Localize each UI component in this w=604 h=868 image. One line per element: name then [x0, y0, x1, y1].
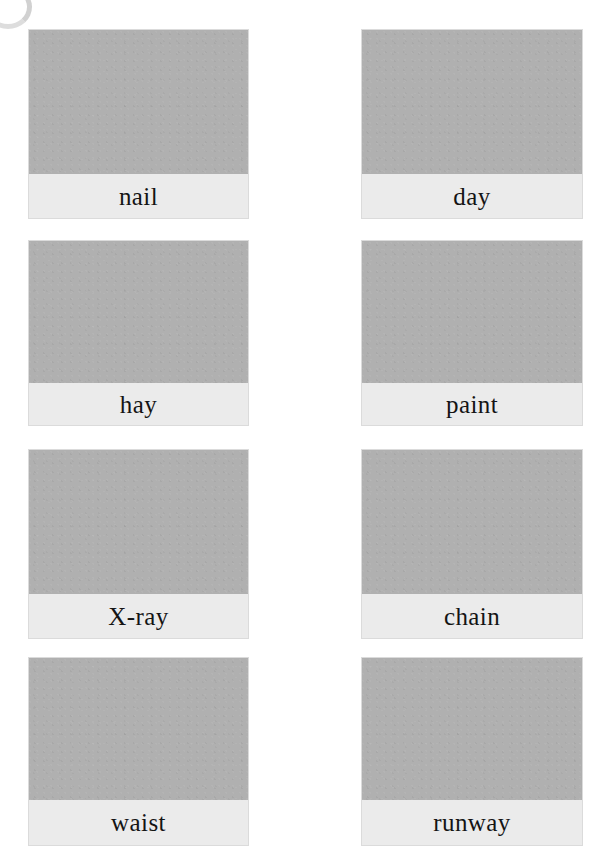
- card-label: nail: [119, 184, 158, 209]
- card-label: X-ray: [108, 604, 168, 629]
- card-image-placeholder: [29, 658, 248, 800]
- card-image-placeholder: [29, 450, 248, 594]
- flashcard-hay[interactable]: hay: [29, 241, 248, 425]
- flashcard-day[interactable]: day: [362, 30, 582, 218]
- card-image-placeholder: [362, 658, 582, 800]
- card-label-band: paint: [362, 383, 582, 425]
- card-image-placeholder: [362, 30, 582, 174]
- card-label: paint: [446, 392, 498, 417]
- card-label-band: nail: [29, 174, 248, 218]
- card-label: chain: [444, 604, 500, 629]
- flashcard-nail[interactable]: nail: [29, 30, 248, 218]
- card-label-band: hay: [29, 383, 248, 425]
- card-label-band: day: [362, 174, 582, 218]
- card-label: day: [453, 184, 490, 209]
- card-label-band: runway: [362, 800, 582, 845]
- card-label-band: X-ray: [29, 594, 248, 638]
- card-label: waist: [111, 810, 166, 835]
- flashcard-chain[interactable]: chain: [362, 450, 582, 638]
- card-image-placeholder: [29, 30, 248, 174]
- flashcard-runway[interactable]: runway: [362, 658, 582, 845]
- card-image-placeholder: [29, 241, 248, 383]
- flashcard-paint[interactable]: paint: [362, 241, 582, 425]
- flashcard-grid: nail day hay paint X-ray chain: [0, 0, 604, 868]
- card-label: runway: [433, 810, 510, 835]
- flashcard-x-ray[interactable]: X-ray: [29, 450, 248, 638]
- card-image-placeholder: [362, 241, 582, 383]
- card-image-placeholder: [362, 450, 582, 594]
- flashcard-waist[interactable]: waist: [29, 658, 248, 845]
- card-label-band: waist: [29, 800, 248, 845]
- card-label-band: chain: [362, 594, 582, 638]
- card-label: hay: [120, 392, 157, 417]
